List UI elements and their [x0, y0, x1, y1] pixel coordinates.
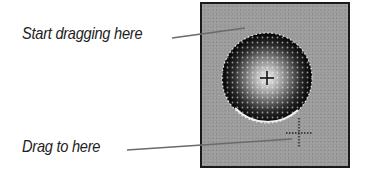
dotted-crosshair-icon — [286, 118, 313, 148]
diagram-overlay — [0, 0, 366, 171]
end-leader-line — [127, 139, 292, 150]
start-leader-line — [172, 28, 245, 38]
